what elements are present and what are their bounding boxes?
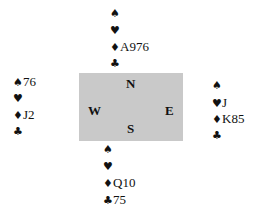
club-icon: ♣	[13, 124, 22, 141]
diamond-icon: ♦	[212, 112, 221, 129]
north-diamonds-cards: A976	[120, 39, 149, 56]
east-diamonds-row: ♦ K85	[212, 111, 244, 128]
spade-icon: ♠	[13, 75, 22, 92]
east-spades-row: ♠	[212, 78, 244, 95]
west-clubs-row: ♣	[13, 124, 36, 141]
diamond-icon: ♦	[110, 40, 119, 57]
east-hearts-row: ♥ J	[212, 95, 244, 112]
club-icon: ♣	[103, 193, 112, 210]
west-spades-row: ♠ 76	[13, 74, 36, 91]
hand-south: ♠ ♥ ♦ Q10 ♣ 75	[103, 142, 135, 209]
compass-north-label: N	[126, 76, 135, 92]
hand-west: ♠ 76 ♥ ♦ J2 ♣	[13, 74, 36, 141]
east-clubs-row: ♣	[212, 128, 244, 145]
west-spades-cards: 76	[23, 74, 36, 91]
spade-icon: ♠	[103, 142, 112, 159]
spade-icon: ♠	[110, 6, 119, 23]
west-diamonds-cards: J2	[23, 107, 35, 124]
club-icon: ♣	[110, 56, 119, 73]
hand-north: ♠ ♥ ♦ A976 ♣	[110, 6, 149, 73]
heart-icon: ♥	[110, 23, 119, 40]
compass-east-label: E	[165, 103, 174, 119]
south-clubs-row: ♣ 75	[103, 192, 135, 209]
west-hearts-row: ♥	[13, 91, 36, 108]
south-diamonds-row: ♦ Q10	[103, 175, 135, 192]
heart-icon: ♥	[13, 91, 22, 108]
north-spades-row: ♠	[110, 6, 149, 23]
compass-south-label: S	[127, 121, 134, 137]
north-diamonds-row: ♦ A976	[110, 39, 149, 56]
south-diamonds-cards: Q10	[113, 175, 135, 192]
hand-east: ♠ ♥ J ♦ K85 ♣	[212, 78, 244, 145]
diamond-icon: ♦	[103, 176, 112, 193]
compass-west-label: W	[88, 103, 101, 119]
east-hearts-cards: J	[222, 95, 227, 112]
east-diamonds-cards: K85	[222, 111, 244, 128]
west-diamonds-row: ♦ J2	[13, 107, 36, 124]
heart-icon: ♥	[212, 96, 221, 113]
south-clubs-cards: 75	[113, 192, 126, 209]
north-clubs-row: ♣	[110, 56, 149, 73]
spade-icon: ♠	[212, 78, 221, 95]
club-icon: ♣	[212, 128, 221, 145]
compass-table: N W E S	[79, 73, 183, 141]
north-hearts-row: ♥	[110, 23, 149, 40]
south-hearts-row: ♥	[103, 159, 135, 176]
heart-icon: ♥	[103, 159, 112, 176]
south-spades-row: ♠	[103, 142, 135, 159]
diamond-icon: ♦	[13, 108, 22, 125]
